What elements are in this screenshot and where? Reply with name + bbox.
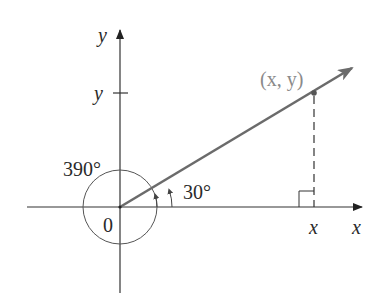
angle-390-label: 390° (63, 158, 101, 180)
diagram-canvas: y y x x 0 (x, y) 30° 390° (0, 0, 377, 299)
point-label: (x, y) (260, 68, 303, 91)
angle-30-arc-outer (170, 191, 173, 207)
angle-30-label: 30° (183, 181, 211, 203)
y-axis-label: y (96, 24, 107, 47)
x-tick-label: x (308, 216, 318, 238)
terminal-ray (120, 68, 352, 207)
right-angle-marker (299, 191, 314, 207)
angle-30-arc-inner (156, 196, 158, 207)
point-xy-dot (311, 90, 317, 96)
origin-label: 0 (103, 214, 113, 236)
origin-dot (118, 205, 121, 208)
x-axis-label: x (351, 216, 361, 238)
y-tick-label: y (92, 82, 103, 105)
angle-diagram: y y x x 0 (x, y) 30° 390° (0, 0, 377, 299)
